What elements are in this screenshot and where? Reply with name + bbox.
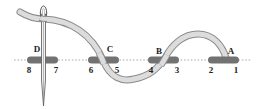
point-number-7: 7	[54, 66, 59, 75]
stitch-letter-c: C	[107, 45, 114, 54]
point-number-3: 3	[175, 66, 180, 75]
point-number-5: 5	[115, 66, 120, 75]
point-number-2: 2	[209, 66, 214, 75]
stitch-bar-a	[208, 57, 239, 64]
stitch-letter-a: A	[228, 47, 235, 56]
stitch-letter-b: B	[156, 47, 162, 56]
point-number-8: 8	[27, 66, 32, 75]
diagram-graphics	[0, 0, 263, 109]
point-number-1: 1	[234, 66, 239, 75]
stitch-diagram: D C B A 8 7 6 5 4 3 2 1	[0, 0, 263, 109]
point-number-4: 4	[149, 66, 154, 75]
stitch-letter-d: D	[34, 45, 41, 54]
thread-outline	[20, 12, 226, 80]
point-number-6: 6	[89, 66, 94, 75]
